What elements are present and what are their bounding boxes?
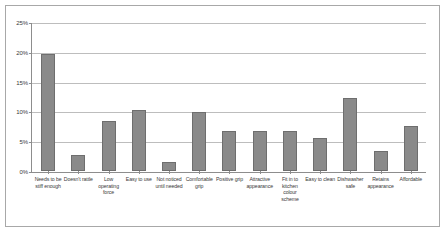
bar <box>222 131 236 171</box>
bar-group: Attractive appearance <box>245 23 275 171</box>
xtick-label: Easy to use <box>124 176 154 183</box>
xtick-label: Fit in to kitchen colour scheme <box>275 176 305 202</box>
bar <box>253 131 267 171</box>
xtick-mark <box>381 171 382 174</box>
bar <box>162 162 176 171</box>
ytick-label-5: 5% <box>20 139 28 145</box>
bar-group: Comfortable grip <box>184 23 214 171</box>
bar <box>192 112 206 171</box>
bar <box>41 54 55 171</box>
ytick-mark-5 <box>29 142 32 143</box>
xtick-mark <box>78 171 79 174</box>
ytick-label-25: 25% <box>16 20 28 26</box>
xtick-mark <box>109 171 110 174</box>
bar <box>313 138 327 171</box>
ytick-mark-10 <box>29 112 32 113</box>
bar <box>343 98 357 171</box>
ytick-mark-20 <box>29 53 32 54</box>
bar <box>283 131 297 171</box>
bar-group: Doesn't rattle <box>63 23 93 171</box>
xtick-label: Not noticed until needed <box>154 176 184 189</box>
xtick-mark <box>260 171 261 174</box>
bar-group: Easy to use <box>124 23 154 171</box>
xtick-label: Low operating force <box>94 176 124 196</box>
bar-group: Dishwasher safe <box>335 23 365 171</box>
xtick-label: Positive grip <box>214 176 244 183</box>
xtick-mark <box>350 171 351 174</box>
xtick-label: Easy to clean <box>305 176 335 183</box>
xtick-label: Attractive appearance <box>245 176 275 189</box>
xtick-mark <box>139 171 140 174</box>
bar <box>374 151 388 171</box>
bar <box>102 121 116 171</box>
xtick-label: Doesn't rattle <box>63 176 93 183</box>
bar <box>71 155 85 171</box>
ytick-label-20: 20% <box>16 50 28 56</box>
xtick-mark <box>199 171 200 174</box>
bar-group: Needs to be stiff enough <box>33 23 63 171</box>
xtick-label: Retains appearance <box>366 176 396 189</box>
ytick-label-15: 15% <box>16 80 28 86</box>
plot-area: 25% 20% 15% 10% 5% 0% Needs to be stiff … <box>31 23 426 173</box>
xtick-mark <box>229 171 230 174</box>
xtick-label: Dishwasher safe <box>335 176 365 189</box>
xtick-mark <box>411 171 412 174</box>
ytick-label-0: 0% <box>20 169 28 175</box>
ytick-mark-0 <box>29 172 32 173</box>
bar-series: Needs to be stiff enoughDoesn't rattleLo… <box>33 23 426 171</box>
bar-group: Easy to clean <box>305 23 335 171</box>
ytick-label-10: 10% <box>16 109 28 115</box>
bar <box>404 126 418 171</box>
xtick-mark <box>320 171 321 174</box>
bar-group: Affordable <box>396 23 426 171</box>
bar-group: Fit in to kitchen colour scheme <box>275 23 305 171</box>
bar-group: Retains appearance <box>366 23 396 171</box>
xtick-label: Comfortable grip <box>184 176 214 189</box>
chart-frame: 25% 20% 15% 10% 5% 0% Needs to be stiff … <box>5 5 440 227</box>
bar-group: Positive grip <box>214 23 244 171</box>
xtick-mark <box>290 171 291 174</box>
bar-group: Low operating force <box>93 23 123 171</box>
xtick-mark <box>169 171 170 174</box>
xtick-label: Affordable <box>396 176 426 183</box>
ytick-mark-15 <box>29 83 32 84</box>
xtick-mark <box>48 171 49 174</box>
xtick-label: Needs to be stiff enough <box>33 176 63 189</box>
bar-group: Not noticed until needed <box>154 23 184 171</box>
ytick-mark-25 <box>29 23 32 24</box>
bar <box>132 110 146 171</box>
